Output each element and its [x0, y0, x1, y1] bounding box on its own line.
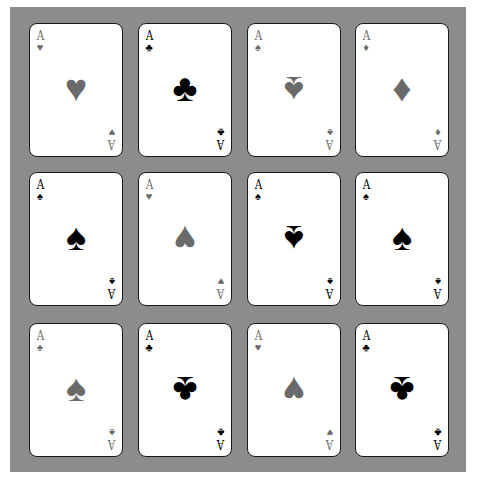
top-left-index: A ♥ — [34, 29, 46, 53]
bottom-right-index: A ♠ — [106, 276, 118, 300]
top-left-index: A ♣ — [143, 329, 155, 353]
club-icon: ♣ — [145, 42, 152, 53]
bottom-right-index: A ♦ — [432, 127, 444, 151]
spade-icon: ♠ — [255, 191, 261, 202]
center-heart-icon: ♥ — [30, 69, 122, 107]
playing-card-ace-of-clubs[interactable]: A ♣ ♣ A ♣ — [355, 323, 449, 457]
center-diamond-icon: ♦ — [356, 69, 448, 107]
playing-card-ace-of-hearts[interactable]: A ♥ ♥ A ♥ — [138, 172, 232, 306]
playing-card-ace-of-hearts[interactable]: A ♥ ♥ A ♥ — [247, 323, 341, 457]
diamond-icon: ♦ — [363, 42, 369, 53]
bottom-right-index: A ♣ — [215, 127, 227, 151]
spade-icon: ♠ — [255, 42, 261, 53]
center-spade-icon: ♠ — [356, 218, 448, 256]
playing-card-ace-of-spades[interactable]: A ♠ ♠ A ♠ — [247, 23, 341, 157]
rank-label: A — [109, 138, 116, 151]
rank-label: A — [255, 329, 262, 342]
heart-icon: ♥ — [37, 42, 44, 53]
rank-label: A — [109, 438, 116, 451]
top-left-index: A ♦ — [360, 29, 372, 53]
center-club-icon: ♣ — [139, 69, 231, 107]
rank-label: A — [363, 329, 370, 342]
bottom-right-index: A ♠ — [106, 427, 118, 451]
club-icon: ♣ — [362, 342, 369, 353]
playing-card-ace-of-spades[interactable]: A ♠ ♠ A ♠ — [355, 172, 449, 306]
rank-label: A — [218, 138, 225, 151]
center-spade-icon: ♠ — [30, 369, 122, 407]
top-left-index: A ♥ — [252, 329, 264, 353]
spade-icon: ♠ — [37, 191, 43, 202]
rank-label: A — [435, 287, 442, 300]
bottom-right-index: A ♣ — [432, 427, 444, 451]
heart-icon: ♥ — [255, 342, 262, 353]
rank-label: A — [146, 29, 153, 42]
top-left-index: A ♠ — [34, 329, 46, 353]
heart-icon: ♥ — [146, 191, 153, 202]
bottom-right-index: A ♠ — [324, 276, 336, 300]
rank-label: A — [255, 178, 262, 191]
rank-label: A — [327, 287, 334, 300]
spade-icon: ♠ — [363, 191, 369, 202]
center-club-icon: ♣ — [356, 371, 448, 409]
playing-card-ace-of-hearts[interactable]: A ♥ ♥ A ♥ — [29, 23, 123, 157]
top-left-index: A ♣ — [360, 329, 372, 353]
rank-label: A — [255, 29, 262, 42]
rank-label: A — [146, 329, 153, 342]
playing-card-ace-of-spades[interactable]: A ♠ ♠ A ♠ — [247, 172, 341, 306]
center-spade-icon: ♠ — [30, 218, 122, 256]
center-club-icon: ♣ — [139, 371, 231, 409]
spade-icon: ♠ — [37, 342, 43, 353]
rank-label: A — [363, 29, 370, 42]
top-left-index: A ♠ — [34, 178, 46, 202]
rank-label: A — [327, 438, 334, 451]
playing-card-ace-of-spades[interactable]: A ♠ ♠ A ♠ — [29, 323, 123, 457]
top-left-index: A ♣ — [143, 29, 155, 53]
top-left-index: A ♠ — [252, 29, 264, 53]
top-left-index: A ♠ — [360, 178, 372, 202]
bottom-right-index: A ♠ — [324, 127, 336, 151]
bottom-right-index: A ♣ — [215, 427, 227, 451]
center-spade-icon: ♠ — [248, 220, 340, 258]
center-heart-icon: ♥ — [248, 371, 340, 409]
bottom-right-index: A ♠ — [432, 276, 444, 300]
rank-label: A — [146, 178, 153, 191]
rank-label: A — [435, 138, 442, 151]
playing-card-ace-of-spades[interactable]: A ♠ ♠ A ♠ — [29, 172, 123, 306]
center-spade-icon: ♠ — [248, 71, 340, 109]
rank-label: A — [218, 287, 225, 300]
bottom-right-index: A ♥ — [215, 276, 227, 300]
rank-label: A — [218, 438, 225, 451]
top-left-index: A ♥ — [143, 178, 155, 202]
rank-label: A — [109, 287, 116, 300]
club-icon: ♣ — [145, 342, 152, 353]
rank-label: A — [37, 178, 44, 191]
rank-label: A — [435, 438, 442, 451]
bottom-right-index: A ♥ — [106, 127, 118, 151]
playing-card-ace-of-clubs[interactable]: A ♣ ♣ A ♣ — [138, 23, 232, 157]
rank-label: A — [327, 138, 334, 151]
center-heart-icon: ♥ — [139, 220, 231, 258]
bottom-right-index: A ♥ — [324, 427, 336, 451]
playing-card-ace-of-clubs[interactable]: A ♣ ♣ A ♣ — [138, 323, 232, 457]
top-left-index: A ♠ — [252, 178, 264, 202]
rank-label: A — [37, 329, 44, 342]
rank-label: A — [37, 29, 44, 42]
rank-label: A — [363, 178, 370, 191]
playing-card-ace-of-diamonds[interactable]: A ♦ ♦ A ♦ — [355, 23, 449, 157]
